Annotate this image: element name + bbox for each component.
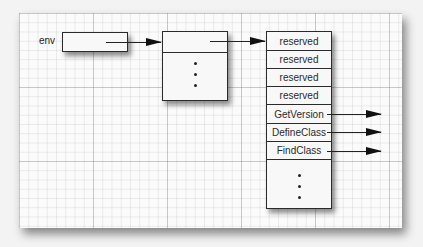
env-to-pointer-table-arrow [106,42,161,43]
getversion-arrow [327,114,381,115]
function-table-row-defineclass: DefineClass [267,124,331,142]
ellipsis-dot [298,174,301,177]
function-table-row-reserved-1: reserved [267,32,331,51]
ellipsis-dot [194,62,197,65]
function-table-row-getversion: GetVersion [267,105,331,124]
function-table-box: reserved reserved reserved reserved GetV… [266,31,332,209]
pointer-table-ellipsis [163,58,227,91]
ellipsis-dot [298,196,301,199]
function-table-row-findclass: FindClass [267,142,331,160]
ellipsis-dot [298,185,301,188]
function-table-row-reserved-3: reserved [267,69,331,87]
function-table-ellipsis [267,170,331,203]
pointer-table-first-slot [163,32,227,53]
ellipsis-dot [194,73,197,76]
ellipsis-dot [194,84,197,87]
pointer-to-function-table-arrow [210,41,265,42]
function-table-row-reserved-2: reserved [267,51,331,69]
env-label: env [39,35,55,46]
defineclass-arrow [327,132,381,133]
function-table-row-reserved-4: reserved [267,87,331,105]
findclass-arrow [327,151,381,152]
